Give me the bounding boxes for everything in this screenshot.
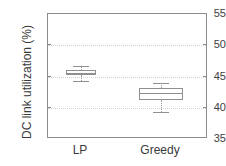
- y-tick-mark-45: [47, 76, 51, 77]
- y-tick-mark-45-right: [203, 76, 207, 77]
- y-tick-mark-40: [47, 107, 51, 108]
- y-tick-mark-40-right: [203, 107, 207, 108]
- y-axis-title: DC link utilization (%): [20, 7, 34, 157]
- x-tick-label-lp: LP: [73, 143, 88, 157]
- greedy-lower-whisker: [161, 100, 162, 112]
- greedy-median: [139, 93, 183, 94]
- greedy-lower-cap: [153, 112, 169, 113]
- box-greedy: [48, 14, 206, 137]
- x-tick-label-greedy: Greedy: [140, 143, 179, 157]
- y-tick-mark-50-right: [203, 44, 207, 45]
- plot-area: [47, 13, 207, 138]
- greedy-box: [139, 88, 183, 100]
- y-tick-mark-50: [47, 44, 51, 45]
- boxplot-chart: 55 50 45 40 35 DC link utilization (%): [0, 0, 226, 166]
